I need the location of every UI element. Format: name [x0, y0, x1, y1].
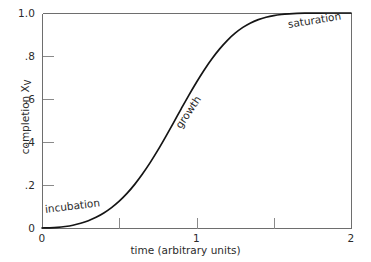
x-tick-label: 2: [336, 233, 366, 244]
x-tick-label: 0: [27, 233, 57, 244]
axes-frame: [43, 14, 352, 229]
y-axis-label: completion XV: [19, 47, 33, 187]
chart-figure: 0.2.4.6.81.0 012 completion XV time (arb…: [0, 0, 371, 262]
y-tick-label: 0: [2, 223, 35, 234]
x-tick-label: 1: [182, 233, 212, 244]
x-axis-label-text: time (arbitrary units): [130, 244, 240, 256]
y-tick-marks: [43, 57, 54, 186]
y-axis-label-subscript: V: [24, 80, 33, 85]
plot-canvas: [0, 0, 371, 262]
sigmoid-curve: [42, 13, 351, 228]
y-tick-label: 1.0: [2, 8, 35, 19]
x-axis-label: time (arbitrary units): [0, 244, 371, 256]
x-tick-marks: [120, 218, 275, 229]
y-axis-label-text: completion X: [19, 85, 31, 154]
